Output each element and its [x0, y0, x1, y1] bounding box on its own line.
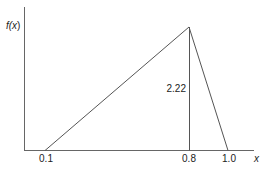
triangular-pdf-diagram: f(x) 2.22 0.1 0.8 1.0 x: [0, 0, 272, 176]
x-tick-0-1: 0.1: [39, 153, 53, 164]
y-axis-label: f(x): [6, 20, 20, 31]
pdf-triangle: [45, 27, 228, 151]
x-axis-label: x: [253, 153, 260, 164]
x-tick-1-0: 1.0: [222, 153, 236, 164]
peak-value-label: 2.22: [167, 83, 187, 94]
x-tick-0-8: 0.8: [182, 153, 196, 164]
